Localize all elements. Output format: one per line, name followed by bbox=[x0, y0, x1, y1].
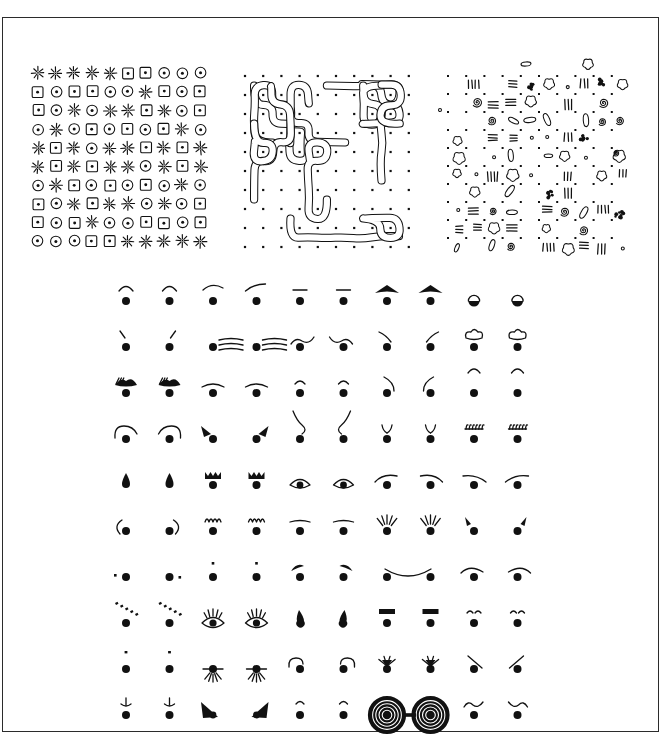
square-dot-icon bbox=[140, 67, 151, 78]
lattice-dot bbox=[611, 147, 613, 149]
lattice-dot bbox=[244, 75, 246, 77]
eye-glyph-solid-triangle-brow bbox=[419, 285, 443, 305]
eye-glyph-curl-over-lid-left bbox=[289, 658, 304, 673]
eye-glyph-dashed-slash-brow bbox=[159, 602, 183, 627]
eye-glyph-swoosh-lid-right bbox=[509, 568, 531, 581]
lattice-dot bbox=[538, 237, 540, 239]
small-dot-icon bbox=[566, 86, 569, 89]
lattice-dot bbox=[244, 94, 246, 96]
lattice-dot bbox=[465, 201, 467, 203]
square-dot-icon bbox=[177, 142, 188, 153]
lattice-dot bbox=[335, 132, 337, 134]
cloud-blob-icon bbox=[470, 187, 481, 197]
eye-glyph-curl-lid-right bbox=[159, 426, 181, 443]
lattice-dot bbox=[483, 147, 485, 149]
lattice-dot bbox=[353, 189, 355, 191]
small-dot-icon bbox=[475, 173, 478, 176]
square-dot-icon bbox=[33, 199, 44, 210]
starburst-icon bbox=[122, 236, 134, 248]
lattice-dot bbox=[520, 219, 522, 221]
lattice-dot bbox=[299, 94, 301, 96]
lattice-dot bbox=[353, 94, 355, 96]
eye-glyph-swoosh-lid-left bbox=[461, 568, 483, 581]
oval-icon bbox=[521, 62, 531, 67]
lattice-dot bbox=[280, 151, 282, 153]
eye-glyph-block-bar-brow bbox=[423, 609, 439, 627]
starburst-icon bbox=[104, 161, 116, 173]
starburst-icon bbox=[104, 198, 116, 211]
lattice-dot bbox=[447, 237, 449, 239]
lattice-dot bbox=[371, 151, 373, 153]
lattice-dot bbox=[408, 227, 410, 229]
eye-glyph-flat-bar-brow bbox=[337, 290, 351, 305]
square-dot-icon bbox=[105, 180, 116, 191]
lattice-dot bbox=[408, 132, 410, 134]
cloud-blob-icon bbox=[562, 244, 574, 256]
lattice-dot bbox=[574, 147, 576, 149]
lattice-dot bbox=[408, 246, 410, 248]
lattice-dot bbox=[371, 75, 373, 77]
starburst-icon bbox=[49, 67, 62, 79]
oval-icon bbox=[544, 154, 553, 158]
symbol-grid-svg bbox=[28, 63, 210, 253]
lattice-dot bbox=[447, 201, 449, 203]
eye-glyph-thin-lid-arc bbox=[246, 384, 268, 397]
lattice-dot bbox=[538, 165, 540, 167]
eye-glyph-short-tick-right bbox=[166, 331, 176, 351]
lattice-dot bbox=[371, 227, 373, 229]
starburst-icon bbox=[175, 123, 188, 136]
eye-glyph-wave-brow-right bbox=[509, 702, 528, 719]
lattice-dot bbox=[371, 246, 373, 248]
square-dot-icon bbox=[51, 161, 62, 172]
square-dot-icon bbox=[86, 236, 97, 247]
square-dot-icon bbox=[159, 86, 170, 97]
scribble-blob-icon bbox=[579, 134, 589, 142]
starburst-icon bbox=[194, 236, 207, 248]
eye-glyph-wedge-brow-right bbox=[253, 426, 269, 443]
eye-glyph-ray-lash-burst bbox=[421, 515, 441, 535]
tally-marks-icon bbox=[474, 224, 482, 230]
tally-marks-icon bbox=[456, 226, 463, 233]
lattice-dot bbox=[299, 132, 301, 134]
square-dot-icon bbox=[195, 217, 206, 228]
eye-glyph-scallop-lash-brow bbox=[249, 519, 265, 535]
lattice-dot bbox=[556, 129, 558, 131]
lattice-dot bbox=[371, 170, 373, 172]
lattice-dot bbox=[262, 132, 264, 134]
lattice-dot bbox=[465, 237, 467, 239]
starburst-icon bbox=[159, 197, 171, 209]
lattice-dot bbox=[280, 94, 282, 96]
lattice-dot bbox=[390, 170, 392, 172]
lattice-dot bbox=[262, 170, 264, 172]
eye-glyph-droplet-pupil-left bbox=[296, 610, 304, 628]
eye-glyph-hook-brow-left bbox=[383, 377, 394, 397]
spiral-icon bbox=[613, 151, 618, 156]
starburst-icon bbox=[122, 104, 134, 117]
eye-glyph-dot-above-pupil bbox=[253, 562, 261, 581]
lattice-dot bbox=[317, 227, 319, 229]
lattice-dot bbox=[520, 201, 522, 203]
tally-marks-icon bbox=[565, 99, 572, 109]
eye-glyph-crow-foot-lash bbox=[422, 656, 438, 673]
lattice-dot bbox=[262, 208, 264, 210]
lattice-dot bbox=[317, 208, 319, 210]
spiral-icon bbox=[490, 208, 496, 214]
lattice-dot bbox=[556, 183, 558, 185]
eye-glyph-teardrop-pupil bbox=[122, 473, 130, 488]
tally-marks-icon bbox=[619, 170, 626, 177]
lattice-dot bbox=[280, 132, 282, 134]
lattice-dot bbox=[538, 183, 540, 185]
starburst-icon bbox=[68, 160, 80, 172]
square-dot-icon bbox=[32, 217, 43, 228]
lattice-dot bbox=[353, 246, 355, 248]
lattice-dot bbox=[299, 170, 301, 172]
lattice-dot bbox=[317, 189, 319, 191]
cloud-blob-icon bbox=[525, 96, 536, 107]
symbol-grid-panel bbox=[28, 63, 210, 253]
eye-glyph-triple-line-brow bbox=[253, 339, 287, 352]
lattice-dot bbox=[244, 208, 246, 210]
eye-glyph-crown-brow bbox=[205, 472, 221, 489]
lattice-dot bbox=[335, 227, 337, 229]
lattice-dot bbox=[317, 132, 319, 134]
lattice-dot bbox=[335, 170, 337, 172]
